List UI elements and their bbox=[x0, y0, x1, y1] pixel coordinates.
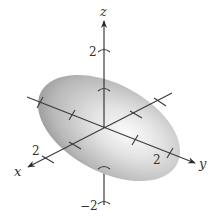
z-tick-label-top: 2 bbox=[89, 45, 97, 59]
y-axis-label: y bbox=[198, 156, 207, 171]
z-axis-label: z bbox=[99, 4, 107, 19]
y-tick-label: 2 bbox=[153, 153, 161, 167]
ellipsoid-figure: z 2 −2 2 x 2 y bbox=[0, 0, 214, 216]
x-axis-label: x bbox=[14, 164, 22, 179]
z-tick-label-bottom: −2 bbox=[80, 199, 98, 213]
ellipsoid-surface bbox=[20, 53, 197, 203]
x-tick-label: 2 bbox=[32, 144, 40, 158]
